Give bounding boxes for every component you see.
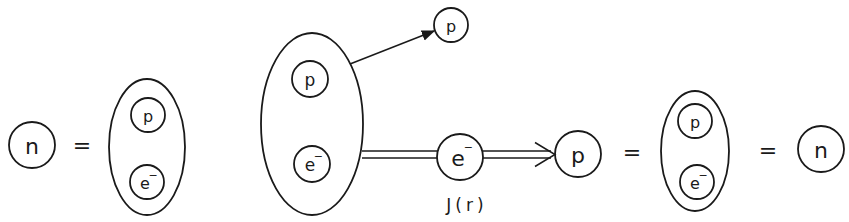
composite-right: pe−	[661, 91, 729, 211]
bound-state-ellipse	[109, 79, 185, 215]
charge-superscript: −	[698, 169, 707, 182]
e-mid: e−	[437, 134, 483, 180]
particle-symbol: e	[451, 146, 465, 171]
line-electron-propagator	[362, 151, 437, 158]
particle-symbol: p	[571, 143, 585, 168]
particle-symbol: p	[143, 107, 153, 126]
n-left: n	[9, 122, 55, 168]
particle-symbol: n	[814, 138, 828, 163]
n-right: n	[798, 126, 844, 172]
equals-sign: =	[623, 140, 641, 165]
equals-sign: =	[73, 133, 91, 158]
neutron-decomposition-diagram: pe−pe−pe− npe−pn === J(r)	[0, 0, 849, 222]
particle-symbol: p	[305, 70, 316, 90]
composite-center: pe−	[261, 33, 363, 215]
arrow-electron-to-proton	[483, 143, 555, 167]
composite-particles: pe−pe−pe−	[109, 33, 729, 215]
proton: p	[131, 98, 165, 132]
diagram-canvas: pe−pe−pe− npe−pn === J(r)	[0, 0, 849, 222]
charge-superscript: −	[314, 150, 323, 163]
equals-sign: =	[759, 138, 777, 163]
particle-symbol: n	[25, 134, 39, 159]
arrow-proton-emission	[350, 31, 434, 64]
propagator-label: J(r)	[445, 195, 487, 215]
charge-superscript: −	[464, 141, 473, 154]
particle-symbol: p	[690, 113, 700, 132]
electron: e−	[680, 165, 714, 199]
chevron-arrowhead	[535, 143, 555, 167]
proton: p	[292, 61, 328, 97]
equals-signs: ===	[73, 133, 777, 165]
charge-superscript: −	[148, 169, 157, 182]
proton: p	[678, 104, 712, 138]
bound-state-ellipse	[661, 91, 729, 211]
arrow-line	[350, 31, 434, 64]
electron: e−	[294, 146, 330, 182]
electron: e−	[130, 165, 164, 199]
p-mid: p	[555, 131, 601, 177]
particle-symbol: p	[446, 17, 456, 36]
p-top: p	[434, 8, 468, 42]
composite-left: pe−	[109, 79, 185, 215]
